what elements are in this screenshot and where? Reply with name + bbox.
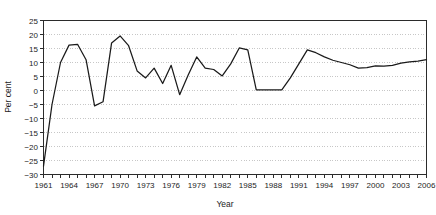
x-tick-label: 1997 xyxy=(341,181,359,190)
y-axis-title: Per cent xyxy=(3,81,13,113)
x-tick-label: 1970 xyxy=(111,181,129,190)
x-tick-label: 2003 xyxy=(392,181,410,190)
line-chart: 2520151050−5−10−15−20−25−30 196119641967… xyxy=(0,0,436,215)
y-tick-label: −5 xyxy=(29,101,39,110)
x-axis-ticks xyxy=(44,175,427,179)
y-tick-label: −15 xyxy=(24,129,38,138)
x-tick-label: 1985 xyxy=(239,181,257,190)
x-tick-label: 1964 xyxy=(60,181,78,190)
y-tick-label: 20 xyxy=(29,31,38,40)
y-tick-label: 5 xyxy=(34,73,39,82)
y-tick-label: −25 xyxy=(24,157,38,166)
x-tick-label: 1994 xyxy=(315,181,333,190)
x-axis-title: Year xyxy=(216,199,233,209)
y-tick-label: −10 xyxy=(24,115,38,124)
x-tick-label: 2000 xyxy=(367,181,385,190)
y-axis-ticks xyxy=(40,21,44,175)
x-tick-label: 1979 xyxy=(188,181,206,190)
chart-container: 2520151050−5−10−15−20−25−30 196119641967… xyxy=(0,0,436,215)
y-tick-label: 10 xyxy=(29,59,38,68)
axis-frame xyxy=(44,21,427,175)
x-tick-label: 1967 xyxy=(86,181,104,190)
x-tick-label: 1991 xyxy=(290,181,308,190)
y-tick-label: −30 xyxy=(24,171,38,180)
y-tick-label: −20 xyxy=(24,143,38,152)
x-axis-tick-labels: 1961196419671970197319761979198219851988… xyxy=(35,181,436,190)
x-tick-label: 1973 xyxy=(137,181,155,190)
y-tick-label: 25 xyxy=(29,17,38,26)
y-tick-label: 15 xyxy=(29,45,38,54)
x-tick-label: 2006 xyxy=(418,181,436,190)
y-axis-tick-labels: 2520151050−5−10−15−20−25−30 xyxy=(24,17,38,180)
x-tick-label: 1982 xyxy=(213,181,231,190)
x-tick-label: 1961 xyxy=(35,181,53,190)
x-tick-label: 1976 xyxy=(162,181,180,190)
y-tick-label: 0 xyxy=(34,87,39,96)
x-tick-label: 1988 xyxy=(264,181,282,190)
